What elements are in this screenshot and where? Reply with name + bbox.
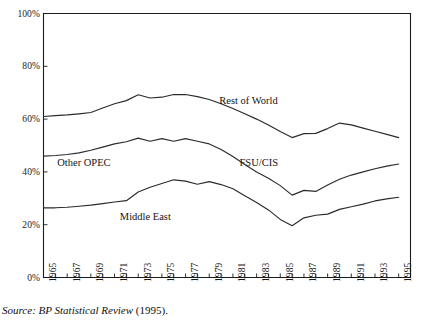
series-label-middle-east: Middle East <box>120 211 171 223</box>
series-label-rest-of-world: Rest of World <box>219 95 277 107</box>
chart-area: 0%20%40%60%80%100% 196519671969197119731… <box>0 0 429 300</box>
series-annotations: Rest of WorldOther OPECFSU/CISMiddle Eas… <box>0 0 429 300</box>
source-note-italic: Source: BP Statistical Review <box>2 304 133 316</box>
source-note-roman: (1995). <box>133 304 168 316</box>
figure-container: 0%20%40%60%80%100% 196519671969197119731… <box>0 0 429 324</box>
series-label-fsu-cis: FSU/CIS <box>239 157 278 169</box>
series-label-other-opec: Other OPEC <box>57 157 110 169</box>
source-note: Source: BP Statistical Review (1995). <box>2 303 168 317</box>
